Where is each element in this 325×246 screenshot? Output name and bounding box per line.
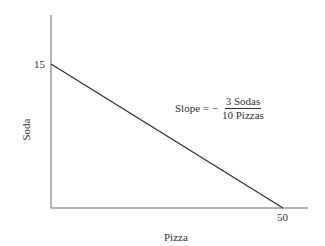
slope-annotation: Slope = − 3 Sodas 10 Pizzas bbox=[175, 96, 265, 121]
slope-denominator: 10 Pizzas bbox=[221, 109, 265, 121]
x-tick-label: 50 bbox=[277, 212, 288, 223]
budget-line bbox=[51, 64, 283, 208]
chart-canvas bbox=[0, 0, 325, 246]
slope-fraction: 3 Sodas 10 Pizzas bbox=[221, 96, 265, 121]
x-axis-title: Pizza bbox=[164, 232, 188, 243]
slope-prefix: Slope = − bbox=[175, 103, 218, 114]
slope-numerator: 3 Sodas bbox=[225, 96, 262, 109]
budget-line-chart: 15 50 Soda Pizza Slope = − 3 Sodas 10 Pi… bbox=[0, 0, 325, 246]
y-axis-title: Soda bbox=[21, 119, 32, 141]
y-tick-label: 15 bbox=[34, 59, 45, 70]
